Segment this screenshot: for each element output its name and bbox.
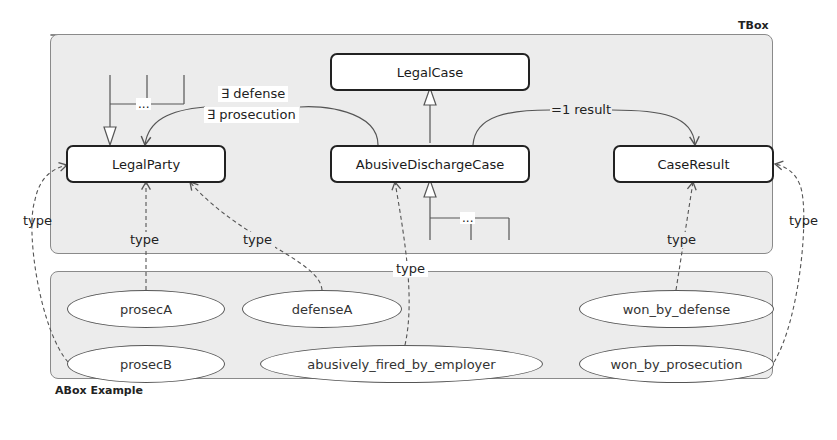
type-label-prosecB: type bbox=[20, 213, 55, 229]
relation-label-defense: ∃ defense bbox=[218, 86, 288, 102]
relation-label-result: =1 result bbox=[548, 102, 614, 118]
type-label-defenseA: type bbox=[240, 232, 275, 248]
relation-label-prosecution: ∃ prosecution bbox=[204, 107, 299, 123]
individual-defenseA[interactable]: defenseA bbox=[242, 290, 402, 328]
individual-abusively-fired-by-employer[interactable]: abusively_fired_by_employer bbox=[260, 345, 543, 383]
subclass-ellipsis: ... bbox=[460, 212, 475, 224]
individual-won-by-defense[interactable]: won_by_defense bbox=[579, 290, 774, 328]
individual-prosecB[interactable]: prosecB bbox=[67, 345, 225, 383]
type-label-won-by-defense: type bbox=[664, 232, 699, 248]
class-legal-party[interactable]: LegalParty bbox=[66, 145, 226, 183]
type-label-won-by-prosecution: type bbox=[786, 213, 821, 229]
individual-prosecA[interactable]: prosecA bbox=[67, 290, 225, 328]
class-legal-case[interactable]: LegalCase bbox=[330, 53, 530, 91]
type-label-abusively-fired: type bbox=[393, 261, 428, 277]
type-label-prosecA: type bbox=[127, 232, 162, 248]
class-case-result[interactable]: CaseResult bbox=[613, 145, 774, 183]
subclass-ellipsis: ... bbox=[136, 98, 151, 110]
individual-won-by-prosecution[interactable]: won_by_prosecution bbox=[579, 345, 774, 383]
class-abusive-discharge-case[interactable]: AbusiveDischargeCase bbox=[330, 145, 530, 183]
